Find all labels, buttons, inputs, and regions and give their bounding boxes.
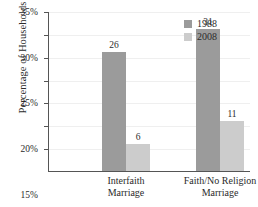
y-axis-tick-label: 35%: [21, 7, 38, 17]
bar-value-label: 6: [136, 132, 141, 142]
category-label-line: Marriage: [107, 187, 144, 199]
bar-1988-group-1: [196, 29, 220, 171]
x-axis-line: [48, 171, 250, 172]
y-axis-tick: 5%: [44, 149, 48, 150]
bar-1988-group-0: [102, 52, 126, 171]
legend-label: 1988: [197, 18, 217, 29]
y-axis-line: [48, 12, 49, 172]
legend-swatch-icon: [184, 20, 192, 28]
category-label-line: Interfaith: [107, 175, 144, 187]
y-axis-tick: 35%: [44, 12, 48, 13]
bar-value-label: 26: [109, 40, 119, 50]
category-label-line: Marriage: [184, 187, 257, 199]
legend-label: 2008: [197, 31, 217, 42]
bar-2008-group-0: [126, 144, 150, 171]
y-axis-tick: 25%: [44, 58, 48, 59]
plot-area: 5%10%15%20%25%30%35% 2631611: [48, 12, 250, 172]
legend-item-2008: 2008: [184, 30, 217, 43]
y-axis-tick: 10%: [44, 126, 48, 127]
x-axis-category-label: Faith/No ReligionMarriage: [184, 175, 257, 199]
legend: 19882008: [184, 17, 217, 43]
y-axis-tick: 20%: [44, 81, 48, 82]
x-axis-category-label: InterfaithMarriage: [107, 175, 144, 199]
bar-value-label: 11: [227, 109, 236, 119]
y-axis-tick-label: 25%: [21, 98, 38, 108]
y-axis-title: Percentage of Households: [17, 0, 28, 138]
legend-item-1988: 1988: [184, 17, 217, 30]
category-label-line: Faith/No Religion: [184, 175, 257, 187]
y-axis-tick: 30%: [44, 35, 48, 36]
gridline: [49, 12, 250, 13]
y-axis-tick-label: 15%: [21, 190, 38, 200]
y-axis-tick: 15%: [44, 103, 48, 104]
bar-2008-group-1: [220, 121, 244, 171]
y-axis-tick-label: 30%: [21, 53, 38, 63]
bar-chart: Percentage of Households 5%10%15%20%25%3…: [0, 0, 258, 207]
legend-swatch-icon: [184, 33, 192, 41]
y-axis-tick-label: 20%: [21, 144, 38, 154]
